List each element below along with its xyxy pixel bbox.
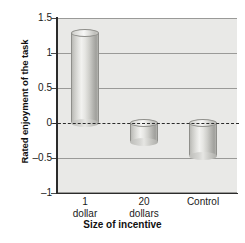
y-tick-label-0.5: 0.5: [22, 83, 52, 93]
bar-chart-figure: Rated enjoyment of the task 1.5 1 0.5 0 …: [0, 0, 245, 243]
zero-reference-line: [53, 123, 239, 124]
y-axis-line: [56, 17, 58, 194]
plot-area: [56, 18, 237, 193]
bar-1-dollar: [71, 33, 99, 123]
bar-20-dollars-foot: [130, 138, 158, 146]
x-tick-label-control: Control: [163, 196, 243, 208]
bar-control: [189, 123, 217, 156]
bar-control-foot: [189, 152, 217, 160]
x-axis-title: Size of incentive: [0, 219, 245, 230]
y-tick-label-1.5: 1.5: [22, 13, 52, 23]
y-tick-label-neg0.5: –0.5: [22, 153, 52, 163]
x-axis-line: [56, 193, 238, 195]
y-tick-label-0: 0: [22, 118, 52, 128]
x-tick-label-control-line1: Control: [163, 196, 243, 208]
y-tick-label-1: 1: [22, 48, 52, 58]
gridline-1.5: [56, 18, 237, 19]
